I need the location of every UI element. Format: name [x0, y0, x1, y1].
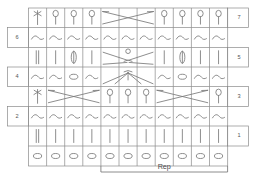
lollipop-head — [162, 10, 167, 16]
chart-cell-r5-c3 — [71, 51, 76, 63]
oval-flat-icon — [52, 154, 60, 159]
wave-icon — [104, 36, 116, 40]
chart-cell-r6-c5 — [104, 36, 116, 40]
chart-cell-r0-c5 — [106, 154, 114, 159]
row-number-label-7: 7 — [237, 14, 240, 20]
wave-icon — [32, 115, 44, 119]
chart-cell-r6-c10 — [194, 36, 206, 40]
chart-symbols — [32, 10, 225, 158]
oval-flat-icon — [178, 154, 186, 159]
wave-icon — [158, 36, 170, 40]
chart-cell-r6-c11 — [213, 36, 225, 40]
chart-cell-r7-c1 — [34, 11, 41, 25]
oval-flat-icon — [196, 154, 204, 159]
chart-cell-r6-c8 — [158, 36, 170, 40]
wave-icon — [158, 75, 170, 79]
chart-cell-r2-c4 — [86, 115, 98, 119]
wave-icon — [86, 115, 98, 119]
oval-flat-icon — [70, 154, 78, 159]
wave-icon — [194, 115, 206, 119]
chart-cell-r4-c2 — [50, 75, 62, 79]
chart-cell-r2-c10 — [194, 115, 206, 119]
v-decrease-base — [124, 60, 132, 61]
chart-cell-r6-c9 — [176, 36, 188, 40]
lollipop-head — [180, 10, 185, 16]
chart-cell-r5-c9 — [180, 51, 185, 63]
wave-icon — [194, 36, 206, 40]
chart-cell-r6-c7 — [140, 36, 152, 40]
v-decrease-leg — [103, 62, 127, 64]
row-number-label-2: 2 — [15, 113, 18, 119]
oval-flat-icon — [124, 154, 132, 159]
chart-cell-r6-c6 — [122, 36, 134, 40]
chart-cell-r5-c1 — [36, 51, 38, 64]
fan-ray — [103, 73, 128, 84]
v-decrease-head — [126, 49, 131, 54]
chart-cell-r2-c2 — [50, 115, 62, 119]
chart-cell-r4-c9 — [178, 74, 186, 79]
wave-icon — [122, 36, 134, 40]
chart-cell-r0-c3 — [70, 154, 78, 159]
chart-cell-r0-c9 — [178, 154, 186, 159]
lollipop-head — [125, 89, 130, 95]
knitting-chart-container: 7654321 Rep — [0, 0, 263, 182]
chart-cell-r2-c3 — [68, 115, 80, 119]
fan-ray — [115, 73, 128, 84]
row-number-label-5: 5 — [237, 54, 240, 60]
chart-cell-r2-c1 — [32, 115, 44, 119]
wave-icon — [50, 115, 62, 119]
wave-icon — [50, 36, 62, 40]
chart-cell-r1-c1 — [36, 130, 38, 143]
wave-icon — [213, 36, 225, 40]
chart-cell-r0-c4 — [88, 154, 96, 159]
chart-cell-r2-c11 — [213, 115, 225, 119]
wave-icon — [32, 75, 44, 79]
wave-icon — [68, 115, 80, 119]
lollipop-head — [107, 89, 112, 95]
chart-cell-r0-c7 — [142, 154, 150, 159]
repeat-bracket-group: Rep — [101, 162, 228, 172]
chart-cell-r7-c10 — [198, 10, 203, 24]
chart-cell-r3-c1 — [34, 90, 41, 104]
chart-cell-r7-c4 — [89, 10, 94, 24]
wave-icon — [86, 75, 98, 79]
oval-flat-icon — [142, 154, 150, 159]
chart-cell-r4-c1 — [32, 75, 44, 79]
wave-icon — [140, 36, 152, 40]
chart-cell-r3-c5 — [107, 89, 112, 103]
wave-icon — [50, 75, 62, 79]
oval-flat-icon — [214, 154, 222, 159]
lollipop-head — [216, 10, 221, 16]
wave-icon — [122, 115, 134, 119]
chart-cell-r3-c7 — [143, 89, 148, 103]
wave-icon — [158, 115, 170, 119]
chart-cell-r2-c8 — [158, 115, 170, 119]
chart-cell-r4-c10 — [194, 75, 206, 79]
knitting-chart-svg: 7654321 Rep — [0, 0, 263, 182]
chart-cell-r7-c9 — [180, 10, 185, 24]
chart-cell-r0-c11 — [214, 154, 222, 159]
oval-flat-icon — [106, 154, 114, 159]
lollipop-head — [53, 10, 58, 16]
chart-cell-r2-c7 — [140, 115, 152, 119]
fan-ray — [128, 73, 153, 84]
lollipop-head — [216, 89, 221, 95]
chart-cell-r4-c11 — [213, 75, 225, 79]
chart-cell-r7-c5 — [103, 12, 154, 24]
lollipop-head — [89, 10, 94, 16]
chart-cell-r4-c4 — [86, 75, 98, 79]
oval-flat-icon — [33, 154, 41, 159]
v-decrease-arm — [103, 52, 127, 60]
chart-cell-r6-c3 — [68, 36, 80, 40]
wave-icon — [104, 115, 116, 119]
chart-cell-r4-c8 — [158, 75, 170, 79]
chart-cell-r2-c9 — [176, 115, 188, 119]
chart-cell-r2-c6 — [122, 115, 134, 119]
chart-cell-r0-c6 — [124, 154, 132, 159]
chart-cell-r7-c3 — [71, 10, 76, 24]
row-number-label-3: 3 — [237, 93, 240, 99]
chart-cell-r0-c8 — [160, 154, 168, 159]
wave-icon — [32, 36, 44, 40]
lollipop-head — [198, 10, 203, 16]
chart-cell-r3-c8 — [157, 90, 208, 102]
